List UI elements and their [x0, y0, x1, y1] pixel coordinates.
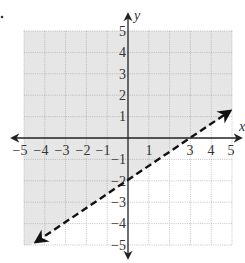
y-tick-label: 1 [119, 109, 126, 124]
y-tick-label: −5 [111, 238, 126, 253]
y-tick-label: −1 [111, 152, 126, 167]
x-tick-label: 4 [208, 143, 215, 158]
problem-marker-dot [1, 16, 4, 19]
inequality-graph: y x −5 −4 −3 −2 −1 1 3 4 5 5 4 3 2 1 −1 … [0, 0, 245, 263]
x-tick-label: 3 [187, 143, 194, 158]
y-axis-label: y [132, 8, 141, 23]
y-tick-label: 3 [119, 67, 126, 82]
y-tick-label: 2 [119, 88, 126, 103]
y-tick-label: −4 [111, 216, 126, 231]
x-tick-label: 5 [228, 143, 235, 158]
x-tick-label: −5 [13, 143, 28, 158]
x-tick-label: −3 [55, 143, 70, 158]
x-tick-label: 1 [146, 143, 153, 158]
x-tick-label: −2 [76, 143, 91, 158]
y-tick-label: 4 [119, 45, 126, 60]
x-axis-label: x [238, 119, 245, 134]
y-tick-label: 5 [119, 24, 126, 39]
y-tick-label: −3 [111, 195, 126, 210]
x-tick-label: −4 [34, 143, 49, 158]
x-tick-label: −1 [96, 143, 111, 158]
